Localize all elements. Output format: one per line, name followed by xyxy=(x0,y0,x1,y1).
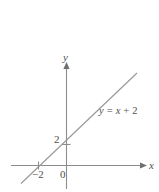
line-equation-label: y = x + 2 xyxy=(99,106,138,117)
x-axis-arrowhead xyxy=(140,162,147,168)
origin-label: 0 xyxy=(60,169,66,180)
y-axis-label: y xyxy=(63,52,68,63)
y-axis-arrowhead xyxy=(63,62,69,69)
equation-constant: 2 xyxy=(132,105,137,116)
x-tick-label-negative-2: −2 xyxy=(32,169,44,180)
x-axis-label: x xyxy=(149,160,154,171)
equation-equals-sign: = xyxy=(104,105,116,116)
y-tick-label-2: 2 xyxy=(54,134,60,145)
graph-figure: y x 2 −2 0 y = x + 2 xyxy=(0,0,159,192)
coordinate-graph-svg xyxy=(0,0,159,192)
equation-plus-sign: + xyxy=(121,105,133,116)
